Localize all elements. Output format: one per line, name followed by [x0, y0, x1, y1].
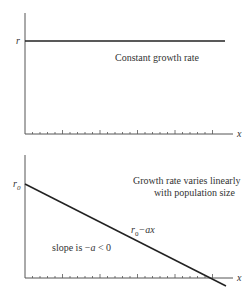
top-x-label: x [237, 128, 241, 140]
top-annotation: Constant growth rate [115, 52, 199, 64]
bottom-title: Growth rate varies linearlywith populati… [133, 175, 235, 199]
line-label: r0−ax [131, 224, 155, 240]
chart-canvas [0, 0, 252, 301]
bottom-y-label: r0 [13, 178, 20, 194]
slope-label: slope is −a < 0 [52, 242, 111, 254]
top-y-label: r [16, 35, 20, 47]
top-x-ticks [33, 130, 213, 134]
bottom-linear-line [25, 184, 226, 286]
bottom-x-label: x [237, 272, 241, 284]
bottom-x-ticks [33, 274, 213, 278]
